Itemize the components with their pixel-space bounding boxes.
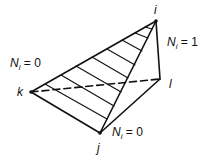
annotation-ni-equals-one: Ni = 1	[167, 36, 198, 51]
node-label-l: l	[169, 78, 172, 90]
tetrahedron-diagram: i j k l Ni = 1 Ni = 0 Ni = 0	[0, 0, 206, 162]
edge-i-l	[156, 21, 160, 79]
node-label-i: i	[154, 4, 157, 16]
edge-k-j	[31, 92, 100, 133]
node-k-dot	[29, 90, 33, 94]
node-label-k: k	[17, 86, 23, 98]
annotation-ni-equals-zero-left: Ni = 0	[10, 57, 41, 72]
annotation-ni-equals-zero-bottom: Ni = 0	[112, 126, 143, 141]
node-j-dot	[98, 131, 102, 135]
hatching	[45, 27, 152, 119]
tetrahedron-drawing	[0, 0, 206, 162]
node-i-dot	[154, 19, 158, 23]
node-label-j: j	[97, 142, 100, 154]
